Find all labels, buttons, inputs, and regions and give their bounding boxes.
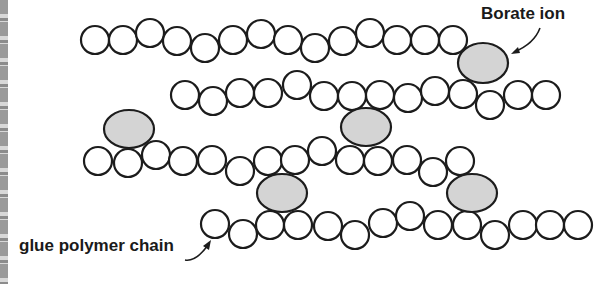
monomer-circle [219, 26, 247, 54]
monomer-circle [283, 71, 311, 99]
monomer-circle [481, 221, 509, 249]
monomer-circle [446, 147, 474, 175]
monomer-circle [142, 141, 170, 169]
monomer-circle [169, 147, 197, 175]
monomer-circle [171, 81, 199, 109]
monomer-circle [199, 87, 227, 115]
monomer-circle [284, 211, 312, 239]
monomer-circle [421, 77, 449, 105]
monomer-circle [163, 27, 191, 55]
glue-polymer-chain-label: glue polymer chain [19, 236, 174, 256]
monomer-circle [364, 147, 392, 175]
monomer-circle [226, 157, 254, 185]
borate-ion [458, 43, 508, 83]
borate-ion [447, 174, 497, 212]
borate-ion [257, 174, 307, 212]
monomer-circle [329, 27, 357, 55]
monomer-circle [536, 211, 564, 239]
monomer-circle [564, 211, 592, 239]
monomer-circle [449, 80, 477, 108]
monomer-circle [411, 26, 439, 54]
monomer-circle [201, 210, 229, 238]
monomer-circle [394, 84, 422, 112]
monomer-circle [226, 79, 254, 107]
monomer-circle [114, 149, 142, 177]
polymer-chain-4 [201, 202, 592, 249]
polymer-chain-1 [81, 19, 467, 62]
monomer-circle [247, 20, 275, 48]
borate-ion [341, 108, 391, 146]
monomer-circle [393, 146, 421, 174]
monomer-circle [453, 211, 481, 239]
monomer-circle [84, 147, 112, 175]
monomer-circle [136, 19, 164, 47]
monomer-circle [198, 146, 226, 174]
chain-arrow-icon [185, 240, 211, 260]
borate-arrow-icon [511, 28, 540, 54]
monomer-circle [109, 26, 137, 54]
monomer-circle [314, 212, 342, 240]
monomer-circle [254, 79, 282, 107]
borate-ion [104, 110, 154, 148]
monomer-circle [281, 146, 309, 174]
monomer-circle [383, 26, 411, 54]
monomer-circle [366, 81, 394, 109]
monomer-circle [81, 26, 109, 54]
monomer-circle [274, 26, 302, 54]
borate-ion-label: Borate ion [481, 4, 565, 24]
monomer-circle [229, 220, 257, 248]
monomer-circle [369, 209, 397, 237]
monomer-circle [301, 34, 329, 62]
monomer-circle [341, 221, 369, 249]
monomer-circle [356, 19, 384, 47]
monomer-circle [504, 81, 532, 109]
monomer-circle [256, 211, 284, 239]
monomer-circle [191, 34, 219, 62]
monomer-circle [338, 82, 366, 110]
borate-ions [104, 43, 508, 212]
monomer-circle [532, 81, 560, 109]
monomer-circle [424, 211, 452, 239]
monomer-circle [310, 82, 338, 110]
monomer-circle [308, 137, 336, 165]
monomer-circle [419, 158, 447, 186]
monomer-circle [509, 211, 537, 239]
monomer-circle [396, 202, 424, 230]
monomer-circle [336, 146, 364, 174]
monomer-circle [476, 91, 504, 119]
monomer-circle [254, 147, 282, 175]
